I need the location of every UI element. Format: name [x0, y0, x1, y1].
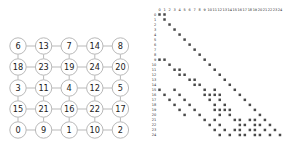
matrix-nonzero-cell [178, 68, 181, 71]
matrix-nonzero-cell [213, 104, 216, 107]
graph-node-label: 0 [15, 125, 20, 135]
matrix-column-header: 24 [278, 8, 283, 12]
matrix-column-header: 10 [207, 8, 211, 12]
matrix-nonzero-cell [244, 134, 247, 137]
graph-node: 9 [35, 122, 51, 138]
matrix-column-header: 8 [199, 8, 201, 12]
matrix-nonzero-cell [183, 38, 186, 41]
matrix-row-headers: 0123456789101112131415161718192021222324 [152, 13, 157, 137]
matrix-row-header: 18 [152, 103, 156, 107]
matrix-nonzero-cell [224, 104, 227, 107]
graph-node: 20 [112, 59, 128, 75]
grid-graph-svg: 6137148182319242031141251521162217091102 [0, 0, 140, 142]
matrix-nonzero-cell [188, 79, 191, 82]
graph-node: 22 [87, 101, 103, 117]
matrix-nonzero-cell [254, 124, 257, 127]
matrix-nonzero-cell [173, 68, 176, 71]
matrix-nonzero-cell [178, 33, 181, 36]
figure-root: 6137148182319242031141251521162217091102… [0, 0, 290, 142]
graph-node: 12 [87, 80, 103, 96]
matrix-nonzero-cell [224, 109, 227, 112]
matrix-nonzero-cell [259, 114, 262, 117]
matrix-nonzero-cell [244, 124, 247, 127]
graph-node-label: 8 [118, 41, 123, 51]
matrix-nonzero-cell [264, 119, 267, 122]
matrix-column-header: 21 [263, 8, 267, 12]
graph-node: 21 [35, 101, 51, 117]
graph-node: 3 [10, 80, 26, 96]
matrix-nonzero-cell [224, 79, 227, 82]
matrix-nonzero-cell [229, 109, 232, 112]
matrix-nonzero-cell [213, 119, 216, 122]
matrix-nonzero-cell [208, 99, 211, 102]
matrix-row-header: 8 [154, 53, 156, 57]
graph-node: 2 [112, 122, 128, 138]
graph-node-label: 17 [115, 104, 125, 114]
graph-node: 1 [61, 122, 77, 138]
graph-node: 14 [87, 38, 103, 54]
matrix-nonzero-cell [239, 124, 242, 127]
graph-node-label: 16 [64, 104, 74, 114]
matrix-row-header: 19 [152, 108, 156, 112]
matrix-column-header: 19 [253, 8, 257, 12]
graph-node-label: 11 [38, 83, 48, 93]
matrix-nonzero-cell [249, 119, 252, 122]
matrix-nonzero-cell [158, 13, 161, 16]
matrix-row-header: 22 [152, 123, 156, 127]
matrix-row-header: 14 [152, 83, 157, 87]
grid-graph-panel: 6137148182319242031141251521162217091102 [0, 0, 140, 142]
matrix-nonzero-cell [254, 129, 257, 132]
matrix-nonzero-cell [178, 109, 181, 112]
graph-node-label: 19 [64, 62, 74, 72]
matrix-row-header: 5 [154, 38, 156, 42]
graph-node: 15 [10, 101, 26, 117]
matrix-nonzero-cell [269, 134, 272, 137]
graph-node: 18 [10, 59, 26, 75]
matrix-nonzero-cell [158, 58, 161, 61]
graph-node-label: 13 [38, 41, 48, 51]
sparsity-matrix-panel: 0123456789101112131415161718192021222324… [146, 4, 290, 142]
graph-node: 19 [61, 59, 77, 75]
matrix-nonzero-cell [213, 129, 216, 132]
matrix-nonzero-cell [198, 53, 201, 56]
matrix-column-header: 7 [194, 8, 196, 12]
matrix-column-header: 9 [204, 8, 206, 12]
graph-node: 16 [61, 101, 77, 117]
matrix-column-header: 15 [233, 8, 237, 12]
matrix-nonzero-cell [173, 28, 176, 31]
matrix-row-header: 16 [152, 93, 156, 97]
matrix-nonzero-cell [249, 129, 252, 132]
matrix-nonzero-cell [269, 124, 272, 127]
matrix-row-header: 17 [152, 98, 156, 102]
graph-node-label: 15 [13, 104, 23, 114]
graph-node: 5 [112, 80, 128, 96]
matrix-nonzero-cell [218, 124, 221, 127]
matrix-nonzero-cell [163, 18, 166, 21]
graph-node: 7 [61, 38, 77, 54]
matrix-column-header: 1 [163, 8, 165, 12]
matrix-row-header: 13 [152, 78, 156, 82]
matrix-row-header: 1 [154, 18, 156, 22]
matrix-column-header: 20 [258, 8, 262, 12]
matrix-nonzero-cell [203, 94, 206, 97]
matrix-row-header: 20 [152, 113, 156, 117]
matrix-nonzero-cell [193, 109, 196, 112]
graph-node-label: 22 [90, 104, 100, 114]
matrix-nonzero-cell [208, 94, 211, 97]
matrix-nonzero-cell [163, 58, 166, 61]
matrix-row-header: 4 [154, 33, 157, 37]
graph-node: 17 [112, 101, 128, 117]
graph-node-label: 3 [15, 83, 20, 93]
matrix-nonzero-cell [229, 134, 232, 137]
matrix-column-header: 23 [273, 8, 277, 12]
graph-node-label: 9 [41, 125, 46, 135]
matrix-row-header: 2 [154, 23, 156, 27]
matrix-column-header: 5 [183, 8, 185, 12]
matrix-nonzero-cell [279, 134, 282, 137]
matrix-nonzero-cell [213, 68, 216, 71]
matrix-nonzero-cell [229, 84, 232, 87]
matrix-column-header: 11 [212, 8, 216, 12]
matrix-column-header: 0 [158, 8, 160, 12]
matrix-nonzero-cell [208, 63, 211, 65]
matrix-column-header: 16 [238, 8, 242, 12]
